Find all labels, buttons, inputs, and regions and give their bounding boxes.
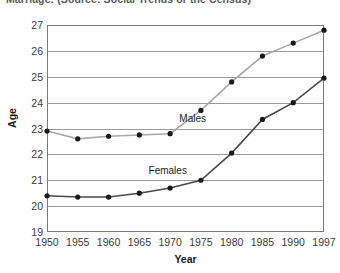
data-point-males — [229, 79, 234, 84]
data-point-males — [137, 132, 142, 137]
y-axis-title: Age — [6, 98, 18, 138]
data-point-males — [260, 53, 265, 58]
y-axis-tick-label: 20 — [21, 201, 43, 211]
data-point-males — [198, 108, 203, 113]
x-axis-tick-labels: 1950195519601965197019751980198519901997 — [47, 236, 324, 250]
data-point-females — [229, 150, 234, 155]
data-point-males — [291, 41, 296, 46]
data-point-females — [198, 178, 203, 183]
y-axis-tick-label: 21 — [21, 175, 43, 185]
series-label-males: Males — [179, 113, 206, 124]
series-label-females: Females — [149, 165, 187, 176]
data-point-males — [44, 128, 49, 133]
y-axis-tick-label: 24 — [21, 98, 43, 108]
data-point-females — [291, 100, 296, 105]
plot-area: MalesFemales — [47, 25, 324, 232]
x-axis-title: Year — [47, 253, 324, 265]
data-point-females — [44, 193, 49, 198]
data-point-females — [106, 194, 111, 199]
x-axis-tick-label: 1997 — [304, 236, 340, 248]
series-layer — [47, 25, 324, 232]
data-point-females — [321, 75, 326, 80]
y-axis-tick-label: 25 — [21, 72, 43, 82]
y-axis-tick-label: 23 — [21, 124, 43, 134]
data-point-females — [75, 194, 80, 199]
y-axis-tick-labels: 192021222324252627 — [18, 25, 43, 232]
data-point-males — [75, 136, 80, 141]
data-point-males — [321, 28, 326, 33]
data-point-females — [137, 191, 142, 196]
y-axis-tick-label: 27 — [21, 20, 43, 30]
data-point-males — [106, 134, 111, 139]
y-axis-tick-label: 22 — [21, 149, 43, 159]
chart-title: Marriage: (Source: Social Trends or the … — [6, 0, 326, 6]
y-axis-tick-label: 26 — [21, 46, 43, 56]
data-point-males — [168, 131, 173, 136]
data-point-females — [168, 185, 173, 190]
data-point-females — [260, 117, 265, 122]
